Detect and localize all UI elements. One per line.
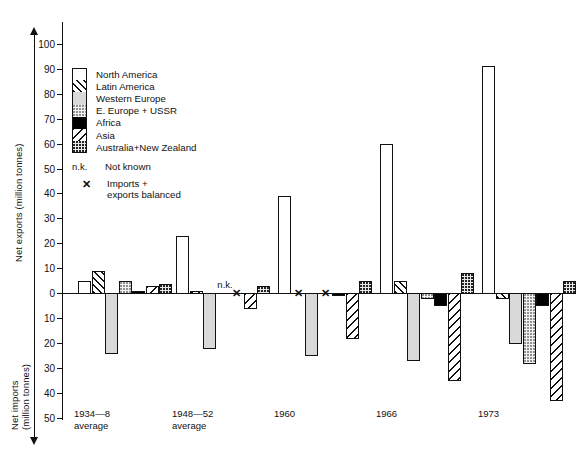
balanced-x-icon: ✕ xyxy=(72,178,98,191)
bar-western-europe-3 xyxy=(407,293,420,361)
bar-latin-america-4 xyxy=(496,293,509,299)
legend-note-line2: exports balanced xyxy=(107,189,181,201)
y-axis-positive-title: Net exports (million tonnes) xyxy=(13,144,24,262)
legend-item-western-europe[interactable]: Western Europe xyxy=(72,92,252,104)
bar-asia-3 xyxy=(448,293,461,381)
x-axis-label-3: 1966 xyxy=(376,408,397,420)
bar-western-europe-0 xyxy=(105,293,118,354)
legend-note-text-0: Not known xyxy=(105,161,151,173)
y-axis-tick-mark xyxy=(57,144,62,145)
legend-notes: n.k.Not known✕Imports +exports balanced xyxy=(72,161,252,201)
bar-australia-new-zealand-1 xyxy=(257,286,270,294)
y-axis-negative-title: Net imports (million tonnes) xyxy=(9,364,31,430)
y-axis-tick-label: 30 xyxy=(44,213,55,224)
y-axis-negative-title-line1: Net imports xyxy=(9,364,20,430)
bar-australia-new-zealand-3 xyxy=(461,273,474,294)
legend-label-latin-america: Latin America xyxy=(96,81,155,92)
bar-asia-0 xyxy=(146,286,159,294)
y-axis-tick-mark xyxy=(57,193,62,194)
y-axis-tick-mark xyxy=(57,393,62,394)
legend-swatch-e-europe-ussr xyxy=(72,105,87,117)
bar-e-europe-ussr-3 xyxy=(421,293,434,299)
legend-swatch-western-europe xyxy=(72,92,87,104)
y-axis-tick-mark xyxy=(57,418,62,419)
y-axis-tick-mark xyxy=(57,268,62,269)
y-axis-tick-mark xyxy=(57,243,62,244)
y-axis-tick-label: 70 xyxy=(44,113,55,124)
legend-item-asia[interactable]: Asia xyxy=(72,129,252,141)
bar-western-europe-4 xyxy=(509,293,522,344)
y-axis-line xyxy=(62,22,63,420)
y-axis-tick-label: 0 xyxy=(49,288,55,299)
y-axis-tick-mark xyxy=(57,218,62,219)
legend-item-latin-america[interactable]: Latin America xyxy=(72,80,252,92)
bar-e-europe-ussr-4 xyxy=(523,293,536,364)
bar-north-america-2 xyxy=(278,196,291,294)
bar-australia-new-zealand-2 xyxy=(359,281,372,294)
legend-label-africa: Africa xyxy=(96,117,121,128)
bar-e-europe-ussr-0 xyxy=(119,281,132,294)
y-axis-tick-label: 40 xyxy=(44,188,55,199)
y-axis-tick-mark xyxy=(57,119,62,120)
balanced-x-marker: ✕ xyxy=(294,288,303,299)
bar-latin-america-3 xyxy=(394,281,407,294)
y-axis-tick-mark xyxy=(57,368,62,369)
bar-north-america-3 xyxy=(380,144,393,294)
y-axis-tick-label: 40 xyxy=(44,387,55,398)
bar-asia-1 xyxy=(244,293,257,309)
balanced-x-marker: ✕ xyxy=(321,288,330,299)
legend-item-north-america[interactable]: North America xyxy=(72,68,252,80)
x-axis-label-line2: average xyxy=(74,420,110,432)
y-axis-tick-label: 80 xyxy=(44,88,55,99)
y-axis-tick-label: 10 xyxy=(44,263,55,274)
y-axis-tick-mark xyxy=(57,318,62,319)
bar-western-europe-1 xyxy=(203,293,216,349)
legend: North AmericaLatin AmericaWestern Europe… xyxy=(72,68,252,206)
bar-africa-4 xyxy=(536,293,549,306)
bar-latin-america-0 xyxy=(92,271,105,294)
legend-swatch-latin-america xyxy=(72,80,87,92)
legend-label-north-america: North America xyxy=(96,69,157,80)
y-axis-tick-label: 100 xyxy=(38,39,55,50)
legend-note-line1: Imports + xyxy=(107,178,181,190)
bar-north-america-1 xyxy=(176,236,189,294)
bar-australia-new-zealand-4 xyxy=(563,281,576,294)
legend-swatch-asia xyxy=(72,129,87,141)
bar-australia-new-zealand-0 xyxy=(159,284,172,294)
legend-swatch-africa xyxy=(72,117,87,129)
legend-note-line1: Not known xyxy=(105,161,151,173)
y-axis-tick-label: 50 xyxy=(44,412,55,423)
legend-swatch-australia-new-zealand xyxy=(72,141,87,153)
y-axis-tick-label: 90 xyxy=(44,63,55,74)
legend-item-africa[interactable]: Africa xyxy=(72,117,252,129)
x-axis-label-line1: 1934—8 xyxy=(74,408,110,420)
not-known-key: n.k. xyxy=(72,161,96,172)
legend-items: North AmericaLatin AmericaWestern Europe… xyxy=(72,68,252,153)
legend-item-australia-new-zealand[interactable]: Australia+New Zealand xyxy=(72,141,252,153)
x-axis-label-4: 1973 xyxy=(478,408,499,420)
legend-note-1: ✕Imports +exports balanced xyxy=(72,178,252,201)
y-axis-tick-mark xyxy=(57,343,62,344)
x-axis-label-line1: 1948—52 xyxy=(172,408,213,420)
bar-asia-2 xyxy=(346,293,359,339)
legend-label-western-europe: Western Europe xyxy=(96,93,166,104)
chart-figure: Net exports (million tonnes) Net imports… xyxy=(0,0,585,458)
not-known-marker: n.k. xyxy=(217,279,232,290)
bar-latin-america-1 xyxy=(190,291,203,294)
y-axis-tick-label: 20 xyxy=(44,337,55,348)
bar-africa-0 xyxy=(132,291,145,294)
y-axis-tick-label: 20 xyxy=(44,238,55,249)
net-exports-up-arrow-icon xyxy=(30,27,39,295)
legend-item-e-europe-ussr[interactable]: E. Europe + USSR xyxy=(72,105,252,117)
legend-label-australia-new-zealand: Australia+New Zealand xyxy=(96,142,196,153)
x-axis-label-1: 1948—52average xyxy=(172,408,213,431)
y-axis-tick-label: 10 xyxy=(44,312,55,323)
legend-note-0: n.k.Not known xyxy=(72,161,252,173)
legend-swatch-north-america xyxy=(72,68,87,80)
bar-africa-2 xyxy=(332,293,345,296)
y-axis-tick-label: 30 xyxy=(44,362,55,373)
bar-north-america-0 xyxy=(78,281,91,294)
x-axis-label-0: 1934—8average xyxy=(74,408,110,431)
y-axis-tick-label: 50 xyxy=(44,163,55,174)
net-imports-down-arrow-icon xyxy=(30,293,39,445)
